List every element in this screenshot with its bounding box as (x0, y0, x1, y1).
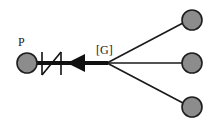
source-node-label: P (18, 35, 25, 49)
leaf-node-bottom[interactable] (182, 97, 202, 117)
source-node-p[interactable] (17, 53, 37, 73)
hub-label: [G] (96, 43, 113, 57)
network-diagram: P [G] (0, 0, 213, 130)
edge-hub-to-top (107, 23, 183, 63)
leaf-node-top[interactable] (182, 10, 202, 30)
leaf-node-middle[interactable] (182, 53, 202, 73)
edge-hub-to-bottom (107, 63, 183, 103)
arrowhead-left-icon (67, 54, 85, 72)
